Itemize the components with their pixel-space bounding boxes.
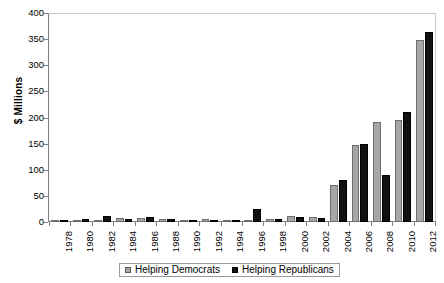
x-tick-mark	[92, 222, 93, 226]
bar-group	[263, 13, 284, 222]
y-tick-mark	[44, 13, 48, 14]
bar-republicans	[318, 218, 326, 222]
x-tick-mark	[285, 222, 286, 226]
bar-group	[178, 13, 199, 222]
bar-group	[328, 13, 349, 222]
bar-republicans	[382, 175, 390, 222]
bar-group	[199, 13, 220, 222]
y-tick-mark	[44, 65, 48, 66]
bar-group	[70, 13, 91, 222]
x-tick-mark	[199, 222, 200, 226]
x-tick-label: 1994	[235, 231, 245, 252]
y-tick-label: 150	[0, 139, 44, 149]
bar-democrats	[202, 219, 210, 222]
bar-group	[113, 13, 134, 222]
legend-label-republicans: Helping Republicans	[242, 265, 334, 275]
bar-group	[306, 13, 327, 222]
x-tick-label: 2002	[321, 231, 331, 252]
x-tick-label: 2004	[343, 231, 353, 252]
bar-democrats	[159, 219, 167, 222]
bar-democrats	[395, 120, 403, 222]
x-tick-mark	[263, 222, 264, 226]
bar-democrats	[94, 220, 102, 222]
y-tick-label: 300	[0, 60, 44, 70]
bar-group	[371, 13, 392, 222]
x-tick-mark	[178, 222, 179, 226]
y-tick-label: 250	[0, 86, 44, 96]
bar-democrats	[352, 145, 360, 222]
x-tick-mark	[435, 222, 436, 226]
bars-layer	[49, 13, 435, 222]
bar-democrats	[266, 219, 274, 222]
y-tick-label: 50	[0, 191, 44, 201]
x-tick-label: 1990	[192, 231, 202, 252]
legend-swatch-icon-democrats	[125, 267, 131, 273]
x-tick-label: 2012	[428, 231, 438, 252]
y-tick-label: 200	[0, 113, 44, 123]
bar-republicans	[253, 209, 261, 222]
x-tick-label: 2008	[385, 231, 395, 252]
bar-democrats	[137, 218, 145, 222]
x-tick-label: 1980	[85, 231, 95, 252]
bar-democrats	[180, 220, 188, 222]
bar-group	[49, 13, 70, 222]
x-tick-mark	[242, 222, 243, 226]
bar-group	[349, 13, 370, 222]
x-tick-mark	[349, 222, 350, 226]
bar-group	[285, 13, 306, 222]
bar-democrats	[244, 220, 252, 222]
bar-republicans	[60, 220, 68, 222]
x-tick-mark	[49, 222, 50, 226]
x-tick-label: 1996	[257, 231, 267, 252]
y-tick-label: 350	[0, 34, 44, 44]
x-tick-label: 1982	[107, 231, 117, 252]
x-tick-label: 2006	[364, 231, 374, 252]
legend: Helping Democrats Helping Republicans	[119, 263, 340, 277]
bar-republicans	[189, 220, 197, 222]
bar-republicans	[82, 219, 90, 222]
bar-group	[156, 13, 177, 222]
y-tick-label: 400	[0, 8, 44, 18]
legend-label-democrats: Helping Democrats	[135, 265, 220, 275]
y-tick-mark	[44, 170, 48, 171]
x-tick-label: 1998	[278, 231, 288, 252]
bar-democrats	[116, 218, 124, 222]
bar-republicans	[339, 180, 347, 222]
y-tick-mark	[44, 222, 48, 223]
legend-swatch-icon-republicans	[232, 267, 238, 273]
x-tick-label: 1984	[128, 231, 138, 252]
y-tick-mark	[44, 91, 48, 92]
y-tick-label: 0	[0, 217, 44, 227]
y-tick-mark	[44, 39, 48, 40]
bar-group	[221, 13, 242, 222]
x-tick-label: 2000	[300, 231, 310, 252]
legend-entry-helping-democrats: Helping Democrats	[125, 265, 220, 275]
bar-republicans	[232, 220, 240, 222]
bar-democrats	[287, 216, 295, 222]
bar-republicans	[210, 220, 218, 222]
bar-democrats	[330, 185, 338, 222]
bar-republicans	[403, 112, 411, 222]
x-tick-label: 1988	[171, 231, 181, 252]
x-tick-mark	[135, 222, 136, 226]
x-tick-mark	[306, 222, 307, 226]
x-tick-mark	[70, 222, 71, 226]
bar-republicans	[146, 217, 154, 222]
x-tick-mark	[328, 222, 329, 226]
x-tick-mark	[414, 222, 415, 226]
bar-democrats	[73, 220, 81, 222]
bar-republicans	[296, 217, 304, 222]
bar-group	[92, 13, 113, 222]
x-tick-mark	[221, 222, 222, 226]
x-tick-label: 2010	[407, 231, 417, 252]
bar-republicans	[275, 219, 283, 222]
bar-group	[135, 13, 156, 222]
bar-republicans	[360, 144, 368, 222]
bar-democrats	[223, 220, 231, 222]
bar-group	[392, 13, 413, 222]
bar-republicans	[167, 219, 175, 222]
bar-group	[414, 13, 435, 222]
x-tick-label: 1986	[150, 231, 160, 252]
bar-democrats	[416, 40, 424, 222]
y-tick-mark	[44, 196, 48, 197]
